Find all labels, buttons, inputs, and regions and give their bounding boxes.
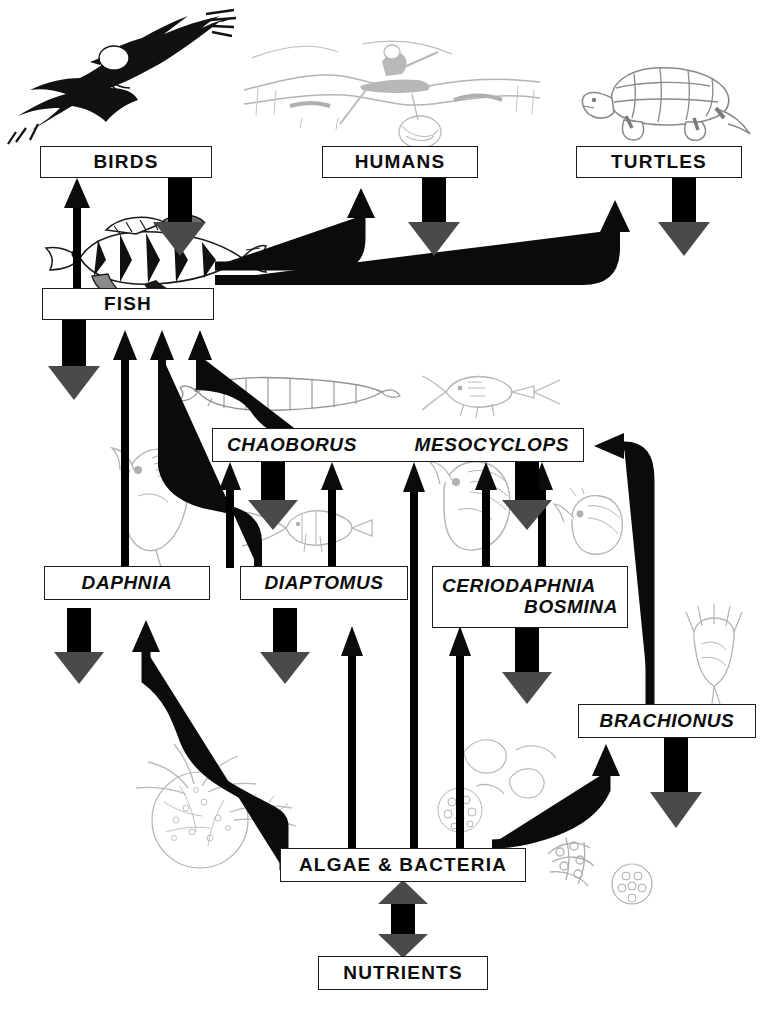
arrow-fish-to-birds [64, 178, 90, 298]
node-birds[interactable]: BIRDS [40, 146, 212, 178]
node-algae-bacteria-label: ALGAE & BACTERIA [299, 855, 507, 876]
nutrient-arrow-chaoborus [246, 462, 300, 530]
brachionus-rotifer-illustration [672, 604, 756, 714]
nutrient-arrow-birds [152, 178, 208, 256]
node-brachionus-label: BRACHIONUS [600, 711, 735, 732]
node-mesocyclops-label: MESOCYCLOPS [415, 435, 569, 456]
nutrient-arrow-daphnia [52, 608, 106, 684]
nutrient-arrow-ceriodaphnia [500, 628, 554, 704]
node-chaoborus-label: CHAOBORUS [227, 435, 357, 456]
node-chaoborus-mesocyclops[interactable]: CHAOBORUS MESOCYCLOPS [212, 428, 584, 462]
node-diaptomus-label: DIAPTOMUS [264, 573, 383, 594]
nutrient-arrow-mesocyclops [500, 462, 554, 530]
arrow-algae-to-ceriodaphnia [448, 626, 472, 856]
node-algae-bacteria[interactable]: ALGAE & BACTERIA [280, 848, 526, 882]
node-fish[interactable]: FISH [42, 288, 214, 320]
nutrient-arrow-diaptomus [258, 608, 312, 684]
node-ceriodaphnia-bosmina[interactable]: CERIODAPHNIA BOSMINA [432, 566, 628, 628]
nutrient-arrow-humans [406, 178, 462, 256]
nutrient-arrow-fish [46, 320, 102, 400]
arrow-diaptomus-to-chaoborus [320, 462, 344, 568]
node-daphnia-label: DAPHNIA [82, 573, 173, 594]
node-nutrients[interactable]: NUTRIENTS [318, 956, 488, 990]
turtle-illustration [578, 50, 758, 150]
arrow-daphnia-to-chaoborus [218, 462, 242, 568]
node-humans[interactable]: HUMANS [322, 146, 478, 178]
arrow-algae-to-diaptomus [340, 626, 364, 856]
node-diaptomus[interactable]: DIAPTOMUS [240, 566, 408, 600]
arrow-algae-to-brachionus [492, 744, 632, 856]
eagle-illustration [6, 8, 238, 148]
nutrient-arrow-brachionus [648, 738, 704, 828]
boat-illustration [242, 28, 542, 150]
arrow-daphnia-to-fish [112, 330, 138, 568]
arrow-algae-to-chaoborus [402, 462, 426, 856]
node-ceriodaphnia-label: CERIODAPHNIA [442, 576, 618, 597]
node-brachionus[interactable]: BRACHIONUS [578, 704, 756, 738]
node-birds-label: BIRDS [93, 152, 158, 173]
node-humans-label: HUMANS [355, 152, 446, 173]
nutrient-arrow-turtles [656, 178, 712, 256]
food-web-diagram: BIRDS HUMANS TURTLES FISH CHAOBORUS MESO… [0, 0, 778, 1012]
arrow-chaoborus-to-fish [178, 330, 308, 440]
node-nutrients-label: NUTRIENTS [343, 963, 463, 984]
node-fish-label: FISH [104, 294, 152, 315]
nutrient-arrow-algae-nutrients [372, 880, 434, 958]
node-daphnia[interactable]: DAPHNIA [44, 566, 210, 600]
arrow-ceriodaphnia-to-mesocyclops [474, 462, 498, 568]
node-bosmina-label: BOSMINA [442, 597, 618, 618]
node-turtles[interactable]: TURTLES [576, 146, 742, 178]
mesocyclops-illustration [420, 366, 570, 418]
node-turtles-label: TURTLES [611, 152, 707, 173]
